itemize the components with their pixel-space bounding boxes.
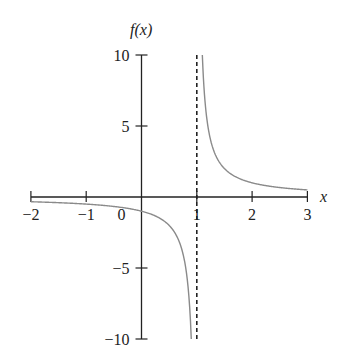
x-tick-label: 1 (193, 206, 201, 223)
x-axis-label: x (319, 188, 327, 205)
x-ticks: −2−10123 (22, 191, 311, 223)
curve-left-branch (31, 202, 191, 339)
function-plot: −2−10123 −10−5510 f(x) x (0, 0, 338, 357)
y-tick-label: −5 (112, 260, 129, 277)
y-axis-label: f(x) (130, 21, 152, 39)
x-tick-label: −1 (78, 206, 95, 223)
x-tick-label: 2 (248, 206, 256, 223)
y-tick-label: 10 (114, 47, 130, 64)
x-tick-label: 0 (118, 206, 126, 223)
y-tick-label: 5 (122, 118, 130, 135)
y-tick-label: −10 (104, 331, 129, 348)
x-tick-label: 3 (303, 206, 311, 223)
axes: −2−10123 −10−5510 (22, 47, 311, 348)
curve-right-branch (202, 55, 307, 190)
x-tick-label: −2 (22, 206, 39, 223)
